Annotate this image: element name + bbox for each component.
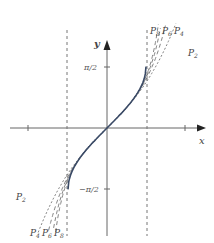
arcsin-taylor-diagram: x y π/2 −π/2 P8 P6 P4 P2 P2 P4 P6 P8 <box>0 0 214 243</box>
x-axis-arrow-icon <box>197 125 206 132</box>
y-axis-arrow-icon <box>104 40 111 50</box>
svg-text:P4: P4 <box>173 26 184 37</box>
svg-text:P2: P2 <box>15 192 26 203</box>
y-tick-label-neg-pi-half: −π/2 <box>79 185 99 194</box>
y-tick-label-pi-half: π/2 <box>83 63 97 72</box>
svg-text:P6: P6 <box>41 228 52 239</box>
y-axis-label: y <box>93 38 101 49</box>
svg-text:P8: P8 <box>149 26 160 37</box>
labels-top-right: P8 P6 P4 P2 <box>149 26 198 59</box>
svg-text:P6: P6 <box>161 26 172 37</box>
labels-bottom-left: P2 P4 P6 P8 <box>15 192 64 239</box>
svg-text:P4: P4 <box>29 228 40 239</box>
x-axis-label: x <box>199 135 205 146</box>
svg-text:P2: P2 <box>187 48 198 59</box>
svg-text:P8: P8 <box>53 228 64 239</box>
